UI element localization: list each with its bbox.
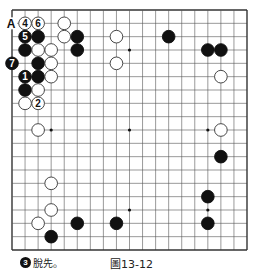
star-point: [206, 208, 209, 211]
go-board: 465712 A: [0, 0, 255, 255]
white-stone: [110, 57, 123, 70]
black-stone: [110, 217, 123, 230]
black-stone: [162, 30, 175, 43]
white-stone: [215, 70, 228, 83]
white-stone: [32, 44, 45, 57]
black-stone: [19, 84, 32, 97]
move-caption-text: 脫先。: [33, 255, 63, 270]
black-stone: [215, 150, 228, 163]
black-stone: 7: [6, 57, 19, 70]
white-stone: [45, 204, 58, 217]
black-stone: [45, 230, 58, 243]
black-stone: [71, 44, 84, 57]
move-number: 7: [9, 58, 15, 69]
white-stone: [32, 84, 45, 97]
white-stone: [45, 57, 58, 70]
black-stone: [32, 70, 45, 83]
black-stone: [32, 57, 45, 70]
white-stone: 6: [32, 17, 45, 30]
move-number: 4: [22, 18, 28, 29]
move-number: 5: [22, 31, 28, 42]
white-stone: 2: [32, 97, 45, 110]
black-stone: [215, 44, 228, 57]
white-stone: [110, 30, 123, 43]
black-stone: [71, 30, 84, 43]
white-stone: [45, 44, 58, 57]
black-stone: [202, 190, 215, 203]
white-stone: [45, 177, 58, 190]
black-stone-icon: 3: [20, 257, 31, 268]
black-stone: [71, 217, 84, 230]
black-stone: [202, 44, 215, 57]
star-point: [128, 128, 131, 131]
point-label: A: [7, 17, 16, 31]
white-stone: [32, 217, 45, 230]
white-stone: 4: [19, 17, 32, 30]
move-number: 1: [22, 71, 28, 82]
white-stone: [58, 30, 71, 43]
black-stone: [202, 217, 215, 230]
black-stone: 5: [19, 30, 32, 43]
board-labels: A: [7, 17, 17, 31]
figure-label: 圖13-12: [110, 255, 153, 271]
move-number: 2: [35, 98, 41, 109]
star-point: [128, 48, 131, 51]
move-caption: 3 脫先。: [20, 255, 63, 270]
star-point: [128, 208, 131, 211]
black-stone: [32, 30, 45, 43]
white-stone: [58, 17, 71, 30]
white-stone: [45, 70, 58, 83]
white-stone: [32, 124, 45, 137]
black-stone: [19, 44, 32, 57]
white-stone: [215, 124, 228, 137]
black-stone: 1: [19, 70, 32, 83]
white-stone: [19, 97, 32, 110]
star-point: [50, 128, 53, 131]
star-point: [206, 128, 209, 131]
move-number: 6: [35, 18, 41, 29]
